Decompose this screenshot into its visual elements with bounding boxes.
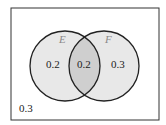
value-f-only: 0.3 — [111, 58, 125, 70]
value-outside: 0.3 — [19, 102, 33, 114]
value-e-only: 0.2 — [46, 58, 60, 70]
label-f: F — [104, 33, 112, 45]
value-intersection: 0.2 — [77, 58, 91, 70]
venn-diagram: E F 0.2 0.2 0.3 0.3 — [0, 0, 166, 125]
label-e: E — [58, 33, 66, 45]
